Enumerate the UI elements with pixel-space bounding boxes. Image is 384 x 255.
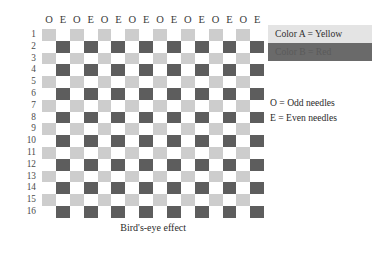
grid-cell-empty bbox=[153, 206, 167, 218]
grid-cell-dark bbox=[111, 41, 125, 53]
grid-cell-dark bbox=[250, 135, 264, 147]
grid-cell-dark bbox=[84, 41, 98, 53]
grid-cell-empty bbox=[209, 41, 223, 53]
grid-cell-light bbox=[181, 171, 195, 183]
grid-cell-empty bbox=[223, 147, 237, 159]
grid-row bbox=[42, 171, 264, 183]
grid-cell-empty bbox=[56, 100, 70, 112]
grid-cell-dark bbox=[195, 112, 209, 124]
grid-cell-empty bbox=[98, 64, 112, 76]
grid-cell-empty bbox=[236, 135, 250, 147]
grid-cell-dark bbox=[56, 182, 70, 194]
grid-cell-light bbox=[236, 171, 250, 183]
grid-cell-light bbox=[181, 123, 195, 135]
column-header-11: O bbox=[181, 12, 195, 28]
grid-cell-empty bbox=[153, 182, 167, 194]
grid-cell-empty bbox=[70, 206, 84, 218]
grid-cell-empty bbox=[139, 100, 153, 112]
grid-row bbox=[42, 194, 264, 206]
grid-cell-dark bbox=[56, 135, 70, 147]
grid-cell-empty bbox=[181, 135, 195, 147]
grid-cell-light bbox=[236, 53, 250, 65]
grid-cell-dark bbox=[195, 88, 209, 100]
legend-color-a-row: Color A = Yellow bbox=[268, 25, 372, 43]
grid-cell-light bbox=[98, 171, 112, 183]
grid-cell-dark bbox=[56, 206, 70, 218]
grid-cell-light bbox=[153, 29, 167, 41]
grid-cell-light bbox=[236, 76, 250, 88]
grid-cell-empty bbox=[167, 123, 181, 135]
grid-cell-empty bbox=[153, 41, 167, 53]
grid-cell-empty bbox=[195, 76, 209, 88]
grid-cell-light bbox=[153, 171, 167, 183]
grid-row bbox=[42, 159, 264, 171]
grid-cell-light bbox=[70, 194, 84, 206]
row-label-14: 14 bbox=[14, 182, 39, 194]
grid-cell-empty bbox=[167, 194, 181, 206]
grid-cell-dark bbox=[223, 41, 237, 53]
grid-cell-empty bbox=[84, 171, 98, 183]
grid-row bbox=[42, 182, 264, 194]
grid-cell-dark bbox=[139, 88, 153, 100]
chart-caption: Bird's-eye effect bbox=[42, 222, 264, 233]
legend-color-b-row: Color B = Red bbox=[268, 43, 372, 61]
grid-cell-empty bbox=[70, 135, 84, 147]
grid-cell-empty bbox=[70, 41, 84, 53]
grid-cell-light bbox=[98, 76, 112, 88]
grid-cell-empty bbox=[250, 123, 264, 135]
grid-cell-empty bbox=[139, 171, 153, 183]
grid-cell-dark bbox=[111, 135, 125, 147]
grid-cell-dark bbox=[195, 64, 209, 76]
grid-cell-light bbox=[42, 53, 56, 65]
grid-cell-dark bbox=[250, 41, 264, 53]
grid-cell-empty bbox=[250, 147, 264, 159]
grid-cell-dark bbox=[195, 182, 209, 194]
grid-cell-empty bbox=[111, 123, 125, 135]
grid-cell-dark bbox=[139, 64, 153, 76]
grid-cell-dark bbox=[167, 135, 181, 147]
row-label-3: 3 bbox=[14, 53, 39, 65]
grid-cell-light bbox=[125, 171, 139, 183]
grid-cell-empty bbox=[195, 100, 209, 112]
grid-cell-empty bbox=[111, 76, 125, 88]
grid-cell-empty bbox=[98, 88, 112, 100]
row-label-15: 15 bbox=[14, 194, 39, 206]
column-header-1: O bbox=[42, 12, 56, 28]
grid-cell-dark bbox=[56, 88, 70, 100]
grid-cell-dark bbox=[195, 206, 209, 218]
grid-cell-light bbox=[42, 147, 56, 159]
chart-area: OEOEOEOEOEOEOEOE 12345678910111213141516… bbox=[14, 12, 254, 244]
grid-cell-empty bbox=[84, 29, 98, 41]
grid-row bbox=[42, 100, 264, 112]
grid-cell-light bbox=[181, 147, 195, 159]
grid-row bbox=[42, 76, 264, 88]
grid-cell-empty bbox=[153, 159, 167, 171]
grid-cell-dark bbox=[250, 159, 264, 171]
grid-cell-empty bbox=[42, 206, 56, 218]
grid-cell-dark bbox=[56, 159, 70, 171]
grid-cell-light bbox=[42, 194, 56, 206]
grid-cell-empty bbox=[56, 29, 70, 41]
grid-cell-empty bbox=[56, 76, 70, 88]
grid-cell-light bbox=[125, 194, 139, 206]
grid-cell-empty bbox=[236, 206, 250, 218]
grid-cell-dark bbox=[84, 112, 98, 124]
grid-cell-light bbox=[98, 123, 112, 135]
grid-cell-empty bbox=[42, 88, 56, 100]
grid-cell-empty bbox=[223, 29, 237, 41]
grid-cell-light bbox=[153, 100, 167, 112]
grid-row bbox=[42, 123, 264, 135]
grid-cell-empty bbox=[209, 206, 223, 218]
row-label-10: 10 bbox=[14, 135, 39, 147]
grid-cell-empty bbox=[250, 171, 264, 183]
grid-cell-dark bbox=[139, 206, 153, 218]
row-label-4: 4 bbox=[14, 64, 39, 76]
row-label-column: 12345678910111213141516 bbox=[14, 29, 39, 218]
grid-cell-light bbox=[70, 76, 84, 88]
grid-cell-empty bbox=[98, 182, 112, 194]
stitch-grid bbox=[42, 29, 264, 218]
grid-cell-empty bbox=[223, 100, 237, 112]
row-label-2: 2 bbox=[14, 41, 39, 53]
grid-cell-empty bbox=[167, 53, 181, 65]
grid-cell-empty bbox=[250, 100, 264, 112]
